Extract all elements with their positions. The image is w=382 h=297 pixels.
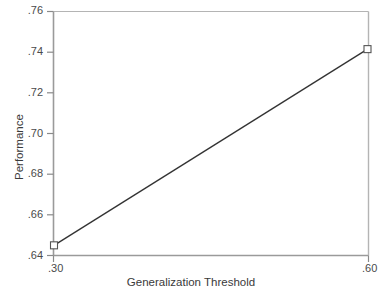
x-tick-marks <box>54 256 369 263</box>
y-tick-label: .76 <box>17 5 43 16</box>
chart-figure: .76 .74 .72 .70 .68 .66 .64 .30 .60 Perf… <box>0 0 382 297</box>
plot-area <box>0 0 382 297</box>
data-point-marker <box>51 242 58 249</box>
x-axis-label: Generalization Threshold <box>0 276 382 288</box>
y-tick-marks <box>47 12 54 256</box>
x-tick-label: .30 <box>48 263 76 274</box>
y-tick-label: .74 <box>17 46 43 57</box>
axis-frame <box>54 12 369 256</box>
data-point-marker <box>364 46 371 53</box>
series-line-performance <box>54 49 368 245</box>
y-tick-label: .72 <box>17 87 43 98</box>
y-axis-label: Performance <box>13 114 25 180</box>
x-tick-label: .60 <box>362 263 382 274</box>
y-tick-label: .66 <box>17 209 43 220</box>
y-tick-label: .64 <box>17 250 43 261</box>
